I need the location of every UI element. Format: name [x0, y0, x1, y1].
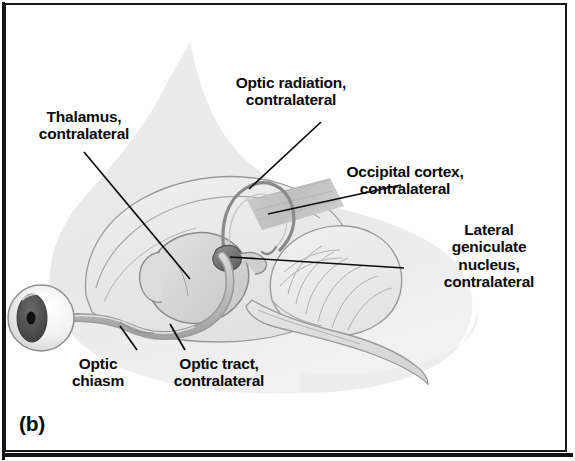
- label-thalamus: Thalamus, contralateral: [0, 108, 168, 143]
- panel-letter: (b): [19, 412, 45, 436]
- eyeball: [8, 285, 74, 351]
- label-optic-radiation: Optic radiation, contralateral: [196, 74, 386, 109]
- figure-panel-b: Thalamus, contralateral Optic radiation,…: [0, 0, 575, 461]
- label-lateral-geniculate-nucleus: Lateral geniculate nucleus, contralatera…: [405, 221, 573, 290]
- label-optic-tract: Optic tract, contralateral: [150, 355, 288, 390]
- label-occipital-cortex: Occipital cortex, contralateral: [305, 163, 505, 198]
- label-optic-chiasm: Optic chiasm: [58, 355, 138, 390]
